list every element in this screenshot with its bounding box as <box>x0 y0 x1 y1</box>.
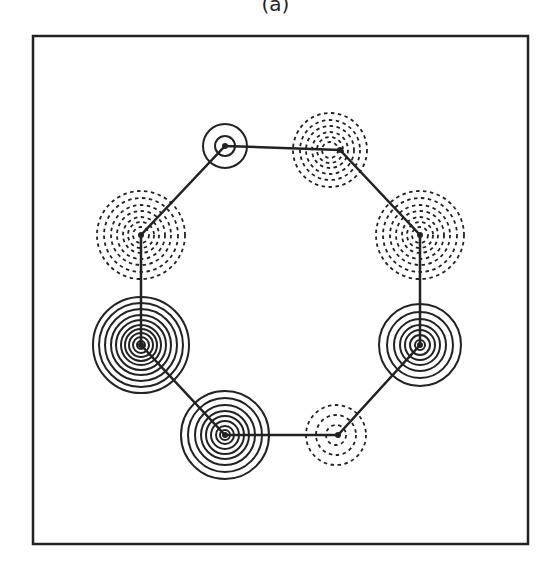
atom-node-dot <box>417 342 423 348</box>
plot-frame <box>33 36 528 544</box>
atom-node-dot <box>337 147 343 153</box>
atom-node-dot <box>222 432 228 438</box>
atom-contours <box>93 113 464 479</box>
atom-nodes <box>138 143 423 438</box>
orbital-contour-diagram <box>0 0 551 566</box>
atom-node-dot <box>138 232 144 238</box>
atom-node-dot <box>222 143 228 149</box>
atom-node-dot <box>335 432 341 438</box>
octagon-ring <box>141 146 420 435</box>
atom-node-dot <box>417 232 423 238</box>
atom-node-dot <box>138 342 144 348</box>
